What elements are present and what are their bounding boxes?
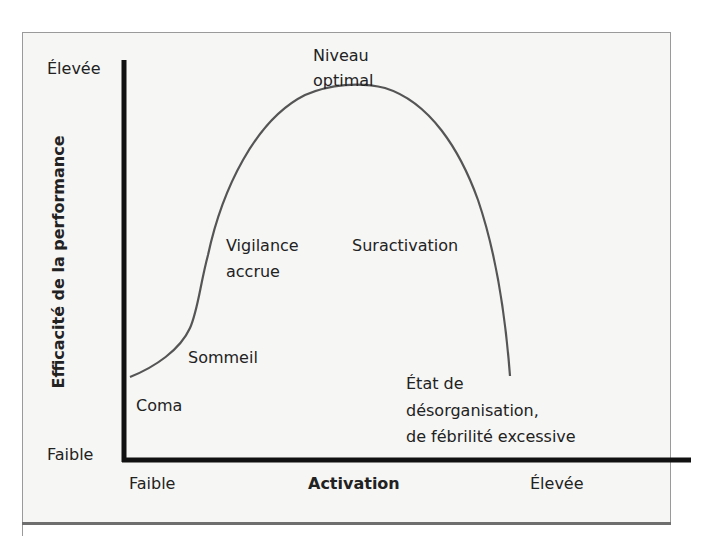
annotation-etat-line1: État de [406,374,464,393]
x-high-tick: Élevée [530,474,584,493]
x-axis-title: Activation [308,474,400,493]
y-axis-title: Efficacité de la performance [49,135,68,388]
annotation-etat-line2: désorganisation, [406,401,539,420]
annotation-coma: Coma [136,396,182,415]
annotation-sommeil: Sommeil [188,348,258,367]
annotation-vigilance-line2: accrue [226,262,280,281]
annotation-etat-line3: de fébrilité excessive [406,427,576,446]
x-low-tick: Faible [129,474,175,493]
annotation-niveau-line2: optimal [313,71,374,90]
annotation-suractivation: Suractivation [352,236,458,255]
annotation-niveau-line1: Niveau [313,46,369,65]
y-low-tick: Faible [47,445,93,464]
y-high-tick: Élevée [47,59,101,78]
performance-curve [130,85,510,377]
annotation-vigilance-line1: Vigilance [226,236,299,255]
